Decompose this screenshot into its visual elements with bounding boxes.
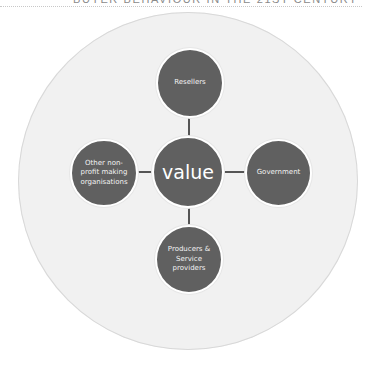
node-resellers: Resellers [156, 48, 224, 118]
center-label: value [162, 162, 214, 182]
node-label: Other non-profit making organisations [77, 159, 131, 188]
connector-right [222, 171, 247, 173]
node-government: Government [245, 139, 312, 207]
connector-bottom [188, 206, 190, 227]
running-header: BUYER BEHAVIOUR IN THE 21ST CENTURY [0, 0, 358, 5]
connector-top [188, 117, 190, 138]
node-other-non-profit-organisations: Other non-profit making organisations [70, 139, 138, 207]
node-producers-service-providers: Producers & Service providers [155, 225, 223, 294]
node-label: Government [257, 168, 301, 178]
node-label: Resellers [174, 78, 206, 88]
node-label: Producers & Service providers [167, 245, 211, 274]
header-divider [0, 6, 362, 7]
node-center-value: value [152, 136, 224, 208]
